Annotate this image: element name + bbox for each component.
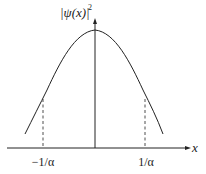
x-axis-label: x: [191, 140, 198, 155]
x-axis-arrow-icon: [185, 146, 191, 150]
tick-label-neg: −1/α: [32, 155, 55, 169]
bell-curve: [25, 30, 163, 134]
wavefunction-diagram: |ψ(x)| 2 x −1/α 1/α: [0, 0, 206, 174]
tick-label-pos: 1/α: [138, 155, 154, 169]
y-axis-arrow-icon: [93, 18, 97, 24]
y-axis-label: |ψ(x)|: [60, 5, 90, 20]
y-axis-label-exponent: 2: [88, 3, 92, 12]
